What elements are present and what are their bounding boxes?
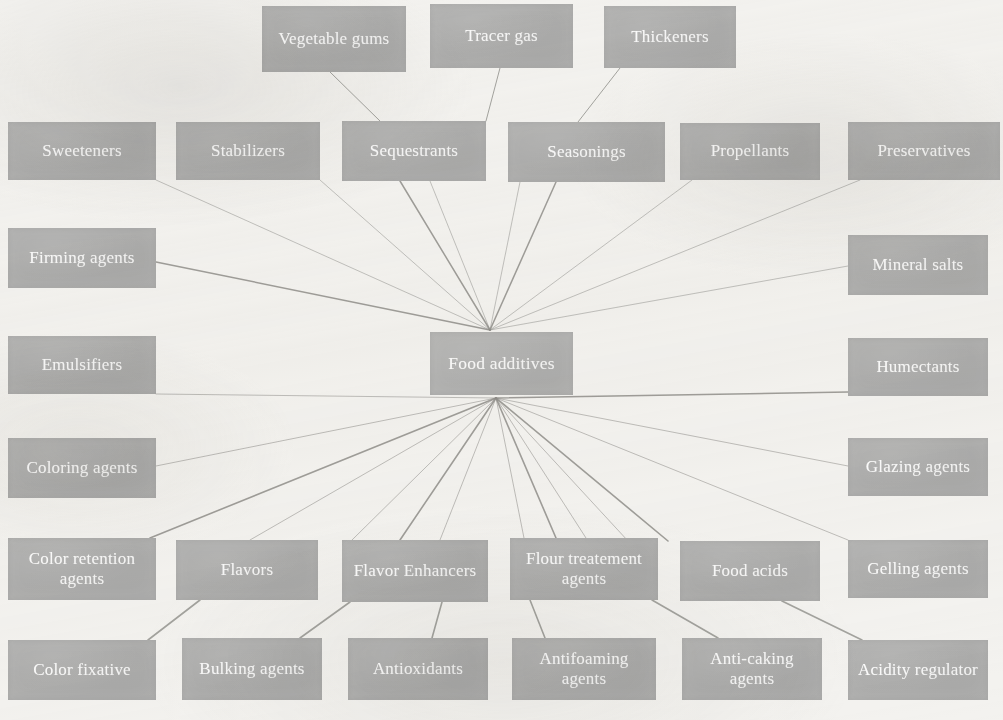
connector-line [300,602,350,638]
node-label: Flavor Enhancers [354,561,477,581]
connector-line [496,398,848,540]
node-bulking-agents[interactable]: Bulking agents [182,638,322,700]
node-label: Antifoaming agents [518,649,650,689]
connector-line [156,180,490,330]
connector-line [320,180,490,330]
node-flavor-enhancers[interactable]: Flavor Enhancers [342,540,488,602]
node-anti-caking-agents[interactable]: Anti-caking agents [682,638,822,700]
node-glazing-agents[interactable]: Glazing agents [848,438,988,496]
connector-line [530,600,545,638]
node-label: Thickeners [631,27,709,47]
connector-line [496,398,586,538]
node-sequestrants[interactable]: Sequestrants [342,121,486,181]
connector-line [432,602,442,638]
diagram-canvas: Food additivesVegetable gumsTracer gasTh… [0,0,1003,720]
connector-line [490,182,556,330]
node-label: Sweeteners [42,141,121,161]
node-label: Anti-caking agents [688,649,816,689]
node-label: Antioxidants [373,659,463,679]
node-label: Humectants [876,357,959,377]
connector-line [652,600,718,638]
connector-line [330,72,380,121]
connector-line [352,398,496,540]
node-stabilizers[interactable]: Stabilizers [176,122,320,180]
connector-line [156,398,496,466]
node-vegetable-gums[interactable]: Vegetable gums [262,6,406,72]
node-gelling-agents[interactable]: Gelling agents [848,540,988,598]
node-acidity-regulator[interactable]: Acidity regulator [848,640,988,700]
node-tracer-gas[interactable]: Tracer gas [430,4,573,68]
node-antifoaming-agents[interactable]: Antifoaming agents [512,638,656,700]
node-label: Coloring agents [26,458,137,478]
node-mineral-salts[interactable]: Mineral salts [848,235,988,295]
connector-line [578,68,620,122]
connector-line [496,398,668,541]
node-color-fixative[interactable]: Color fixative [8,640,156,700]
connector-line [496,398,524,538]
node-sweeteners[interactable]: Sweeteners [8,122,156,180]
node-label: Glazing agents [866,457,970,477]
connector-line [156,262,490,330]
node-label: Emulsifiers [42,355,123,375]
node-antioxidants[interactable]: Antioxidants [348,638,488,700]
connector-line [486,68,500,121]
node-label: Seasonings [547,142,626,162]
node-label: Propellants [711,141,790,161]
connector-line [490,180,692,330]
node-label: Food acids [712,561,788,581]
node-label: Gelling agents [867,559,968,579]
connector-line [440,398,496,540]
node-label: Sequestrants [370,141,458,161]
connector-line [400,181,490,330]
node-coloring-agents[interactable]: Coloring agents [8,438,156,498]
connector-line [430,181,490,330]
connector-line [400,398,496,540]
node-label: Color retention agents [14,549,150,589]
node-label: Acidity regulator [858,660,978,680]
node-preservatives[interactable]: Preservatives [848,122,1000,180]
center-node-food-additives[interactable]: Food additives [430,332,573,395]
node-label: Tracer gas [465,26,538,46]
connector-line [490,180,860,330]
connector-line [250,398,496,540]
connector-line [782,601,862,640]
connector-line [496,398,628,541]
node-label: Food additives [448,353,554,374]
node-label: Flour treatement agents [516,549,652,589]
node-label: Mineral salts [873,255,964,275]
connector-line [148,600,200,640]
node-label: Vegetable gums [279,29,390,49]
connector-line [150,398,496,538]
node-color-retention-agents[interactable]: Color retention agents [8,538,156,600]
node-label: Preservatives [877,141,970,161]
node-flour-treatement-agents[interactable]: Flour treatement agents [510,538,658,600]
node-propellants[interactable]: Propellants [680,123,820,180]
node-label: Firming agents [29,248,134,268]
node-label: Stabilizers [211,141,285,161]
node-firming-agents[interactable]: Firming agents [8,228,156,288]
node-label: Bulking agents [199,659,304,679]
node-flavors[interactable]: Flavors [176,540,318,600]
node-food-acids[interactable]: Food acids [680,541,820,601]
node-thickeners[interactable]: Thickeners [604,6,736,68]
node-seasonings[interactable]: Seasonings [508,122,665,182]
node-emulsifiers[interactable]: Emulsifiers [8,336,156,394]
node-humectants[interactable]: Humectants [848,338,988,396]
connector-line [490,182,520,330]
connector-line [490,266,848,330]
node-label: Color fixative [33,660,131,680]
node-label: Flavors [221,560,273,580]
connector-line [496,398,556,538]
connector-line [496,398,848,466]
